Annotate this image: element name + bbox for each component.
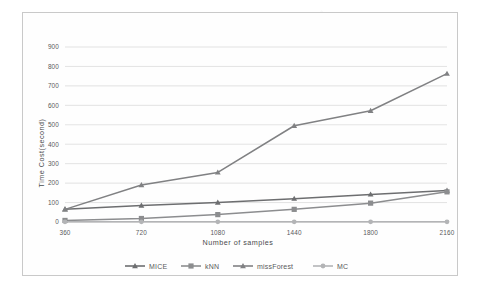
data-point-marker	[215, 212, 220, 217]
data-point-marker	[444, 71, 450, 76]
data-point-marker	[63, 219, 68, 224]
data-point-marker	[188, 263, 193, 268]
x-axis-tick-labels: 3607201080144018002160	[59, 229, 454, 236]
figure-frame: 0100200300400500600700800900 36072010801…	[22, 12, 458, 276]
y-tick-label: 200	[48, 179, 59, 186]
data-point-marker	[368, 219, 373, 224]
x-tick-label: 1800	[363, 229, 378, 236]
data-series-group	[62, 71, 450, 225]
legend-item-missforest[interactable]: missForest	[233, 263, 293, 270]
x-tick-label: 1440	[287, 229, 302, 236]
data-point-marker	[292, 207, 297, 212]
y-axis-title: Time Cost(second)	[37, 119, 46, 188]
y-tick-label: 100	[48, 199, 59, 206]
legend-label: missForest	[257, 263, 293, 270]
data-point-marker	[444, 189, 449, 194]
y-tick-label: 800	[48, 63, 59, 70]
x-axis-title: Number of samples	[203, 238, 274, 247]
series-missforest	[62, 71, 450, 212]
y-tick-label: 700	[48, 82, 59, 89]
data-point-marker	[445, 219, 450, 224]
data-point-marker	[321, 264, 326, 269]
data-point-marker	[368, 201, 373, 206]
x-tick-label: 2160	[440, 229, 455, 236]
data-point-marker	[292, 219, 297, 224]
data-point-marker	[215, 219, 220, 224]
y-tick-label: 0	[55, 218, 59, 225]
y-tick-label: 600	[48, 102, 59, 109]
legend-label: MC	[337, 263, 348, 270]
legend-item-mice[interactable]: MICE	[125, 263, 167, 270]
x-tick-label: 1080	[210, 229, 225, 236]
y-tick-label: 900	[48, 43, 59, 50]
gridlines-group	[65, 47, 447, 222]
series-mc	[63, 219, 450, 224]
line-chart: 0100200300400500600700800900 36072010801…	[23, 13, 459, 277]
y-tick-label: 400	[48, 141, 59, 148]
y-tick-label: 500	[48, 121, 59, 128]
chart-legend: MICEkNNmissForestMC	[125, 263, 348, 270]
x-tick-label: 360	[59, 229, 70, 236]
legend-item-mc[interactable]: MC	[313, 263, 348, 270]
series-line	[65, 74, 447, 210]
y-axis-tick-labels: 0100200300400500600700800900	[48, 43, 59, 225]
x-tick-label: 720	[136, 229, 147, 236]
legend-label: kNN	[205, 263, 219, 270]
legend-item-knn[interactable]: kNN	[181, 263, 219, 270]
y-tick-label: 300	[48, 160, 59, 167]
data-point-marker	[139, 219, 144, 224]
legend-label: MICE	[149, 263, 167, 270]
